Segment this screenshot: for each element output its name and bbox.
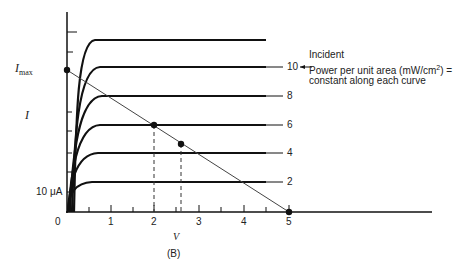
x-tick-0: 0: [55, 216, 61, 227]
annotation-line1: Incident: [309, 49, 344, 60]
annotation-line3: constant along each curve: [309, 75, 426, 86]
arrow-head-icon: [300, 65, 305, 69]
curve-10: [72, 67, 266, 212]
x-ticks: [89, 205, 289, 212]
curve-label-10: 10: [287, 61, 298, 72]
iv-chart: [0, 0, 467, 266]
x-tick-3: 3: [196, 216, 202, 227]
x-tick-5: 5: [286, 216, 292, 227]
panel-label: (B): [167, 248, 180, 259]
load-line: [67, 70, 289, 212]
iv-curves: [68, 40, 266, 212]
x-tick-4: 4: [241, 216, 247, 227]
x-tick-1: 1: [108, 216, 114, 227]
curve-label-leaders: [266, 67, 283, 182]
y-tick-10uA: 10 μA: [36, 186, 62, 197]
curve-2: [68, 182, 266, 212]
curve-label-2: 2: [287, 176, 293, 187]
x-axis-label: V: [173, 231, 179, 242]
y-axis-label: I: [25, 110, 29, 121]
curve-label-8: 8: [287, 90, 293, 101]
curve-6: [69, 125, 266, 212]
point-curve6: [151, 122, 157, 128]
point-voc: [286, 209, 292, 215]
curve-label-4: 4: [287, 147, 293, 158]
imax-label: Imax: [15, 63, 33, 78]
curve-label-6: 6: [287, 119, 293, 130]
point-curve4: [178, 141, 184, 147]
point-imax: [64, 67, 70, 73]
x-tick-2: 2: [151, 216, 157, 227]
